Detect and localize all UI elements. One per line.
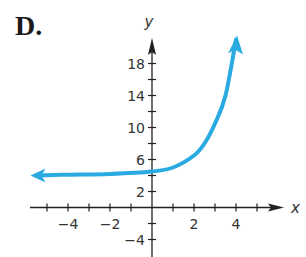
x-tick-label: 4 (232, 216, 241, 232)
y-tick-label: 2 (136, 184, 145, 200)
x-tick-label: −2 (100, 216, 121, 232)
x-axis-label: x (290, 199, 300, 217)
y-tick-label: 14 (127, 88, 145, 104)
y-tick-label: 6 (136, 152, 145, 168)
exponential-chart: −4−22418141062−4xy (0, 0, 306, 257)
x-tick-label: 2 (190, 216, 199, 232)
y-tick-label: 10 (127, 120, 145, 136)
y-tick-label: 18 (127, 56, 145, 72)
x-tick-label: −4 (58, 216, 79, 232)
y-axis-label: y (144, 13, 155, 31)
y-tick-label: −4 (124, 232, 145, 248)
